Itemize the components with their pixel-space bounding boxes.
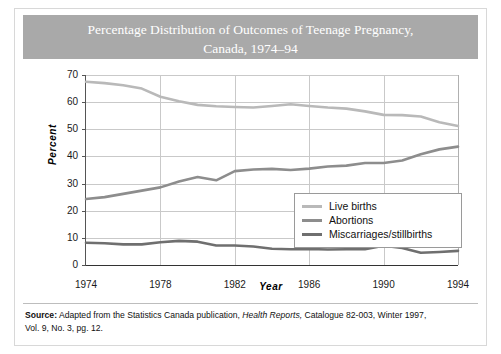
legend-swatch-abortions <box>302 219 322 222</box>
source-line-2: Vol. 9, No. 3, pg. 12. <box>25 323 103 333</box>
chart-title-line-2: Canada, 1974–94 <box>23 39 478 58</box>
y-tick-label: 10 <box>52 233 78 243</box>
y-axis-title: Percent <box>47 110 58 180</box>
source-note: Source: Adapted from the Statistics Cana… <box>25 309 477 335</box>
y-tick-label: 70 <box>52 70 78 80</box>
y-tick-label: 0 <box>52 260 78 270</box>
chart-title-line-1: Percentage Distribution of Outcomes of T… <box>23 20 478 39</box>
y-tick-label: 20 <box>52 206 78 216</box>
y-tick-label: 60 <box>52 97 78 107</box>
legend-item: Abortions <box>302 213 454 227</box>
legend-swatch-miscarriages <box>302 233 322 236</box>
y-tick-label: 50 <box>52 124 78 134</box>
legend: Live births Abortions Miscarriages/still… <box>294 193 462 248</box>
legend-item: Miscarriages/stillbirths <box>302 227 454 241</box>
y-tick-mark <box>82 265 86 266</box>
y-tick-label: 30 <box>52 179 78 189</box>
figure-panel: Percentage Distribution of Outcomes of T… <box>14 8 487 346</box>
legend-label-miscarriages: Miscarriages/stillbirths <box>329 228 432 240</box>
series-line <box>86 147 458 199</box>
legend-label-live-births: Live births <box>329 200 377 212</box>
source-text-2: Catalogue 82-003, Winter 1997, <box>302 310 426 320</box>
source-publication: Health Reports, <box>242 310 302 320</box>
chart-title-bar: Percentage Distribution of Outcomes of T… <box>23 15 478 59</box>
y-tick-label: 40 <box>52 151 78 161</box>
legend-item: Live births <box>302 199 454 213</box>
series-line <box>86 82 458 126</box>
legend-label-abortions: Abortions <box>329 214 373 226</box>
source-divider <box>23 303 478 304</box>
plot-area: 010203040506070 197419781982198619901994… <box>85 75 458 266</box>
source-label: Source: <box>25 310 57 320</box>
x-axis-title: Year <box>85 281 457 292</box>
plot-area-wrapper: Percent 010203040506070 1974197819821986… <box>23 65 478 293</box>
source-text-1: Adapted from the Statistics Canada publi… <box>57 310 242 320</box>
legend-swatch-live-births <box>302 205 322 208</box>
